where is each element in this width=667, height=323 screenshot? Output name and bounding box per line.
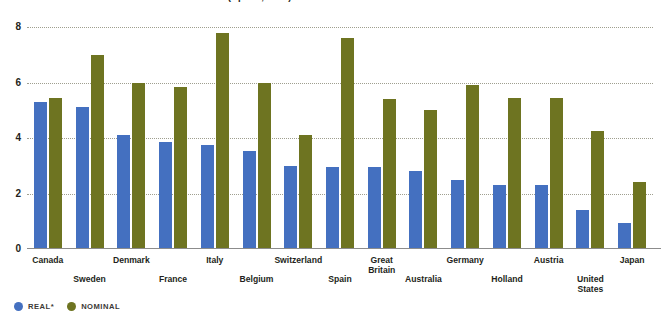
x-axis-label-holland: Holland	[486, 252, 528, 300]
bar-real[interactable]	[76, 107, 89, 249]
bar-real[interactable]	[368, 167, 381, 249]
bar-group	[570, 27, 612, 249]
bar-nominal[interactable]	[49, 98, 62, 249]
x-axis-label-switzerland: Switzerland	[277, 252, 319, 300]
x-axis-label-text: Spain	[328, 275, 351, 285]
bar-group	[110, 27, 152, 249]
bar-group	[361, 27, 403, 249]
legend-label: NOMINAL	[81, 302, 120, 311]
bar-real[interactable]	[576, 210, 589, 249]
x-axis-label-text: Denmark	[113, 256, 150, 266]
bar-group	[403, 27, 445, 249]
bar-nominal[interactable]	[216, 33, 229, 249]
x-axis-label-japan: Japan	[611, 252, 653, 300]
bar-group	[69, 27, 111, 249]
bar-group	[528, 27, 570, 249]
bar-real[interactable]	[618, 223, 631, 249]
y-axis-tick-label: 2	[15, 189, 21, 199]
legend-swatch-real-icon	[14, 302, 23, 311]
x-axis-label-sweden: Sweden	[69, 252, 111, 300]
bar-nominal[interactable]	[341, 38, 354, 249]
x-axis-label-text: Sweden	[73, 275, 105, 285]
legend-label: REAL*	[28, 302, 54, 311]
bar-real[interactable]	[201, 145, 214, 249]
y-axis-tick-label: 8	[15, 22, 21, 32]
x-axis-label-great-britain: Great Britain	[361, 252, 403, 300]
bar-nominal[interactable]	[466, 85, 479, 249]
bar-nominal[interactable]	[508, 98, 521, 249]
x-axis-category-labels: CanadaSwedenDenmarkFranceItalyBelgiumSwi…	[27, 252, 653, 300]
bar-real[interactable]	[243, 151, 256, 250]
x-axis-line	[27, 248, 661, 249]
bar-real[interactable]	[535, 185, 548, 249]
bar-nominal[interactable]	[383, 99, 396, 249]
y-axis-tick-label: 4	[15, 133, 21, 143]
bar-nominal[interactable]	[633, 182, 646, 249]
x-axis-label-united-states: United States	[570, 252, 612, 300]
x-axis-label-text: Australia	[405, 275, 442, 285]
bar-nominal[interactable]	[91, 55, 104, 249]
x-axis-label-text: Austria	[534, 256, 564, 266]
x-axis-label-france: France	[152, 252, 194, 300]
bar-group	[152, 27, 194, 249]
bar-nominal[interactable]	[174, 87, 187, 249]
bar-nominal[interactable]	[550, 98, 563, 249]
x-axis-label-text: Japan	[620, 256, 645, 266]
bar-real[interactable]	[117, 135, 130, 249]
legend-item-real[interactable]: REAL*	[14, 302, 54, 311]
figure-title: FIGURE 3-3 Nominal and real interest rat…	[27, 0, 292, 2]
bar-group	[444, 27, 486, 249]
bar-nominal[interactable]	[299, 135, 312, 249]
x-axis-label-text: Holland	[491, 275, 523, 285]
x-axis-label-australia: Australia	[403, 252, 445, 300]
x-axis-label-text: Switzerland	[274, 256, 322, 266]
bar-group	[319, 27, 361, 249]
x-axis-label-text: France	[159, 275, 187, 285]
y-axis-tick-label: 0	[15, 244, 21, 254]
x-axis-label-text: Belgium	[240, 275, 274, 285]
x-axis-label-text: Germany	[447, 256, 484, 266]
bar-nominal[interactable]	[591, 131, 604, 249]
y-axis-tick-label: 6	[15, 78, 21, 88]
x-axis-label-text: Canada	[32, 256, 63, 266]
x-axis-label-canada: Canada	[27, 252, 69, 300]
bar-nominal[interactable]	[258, 83, 271, 250]
bar-nominal[interactable]	[424, 110, 437, 249]
x-axis-label-austria: Austria	[528, 252, 570, 300]
bar-group	[486, 27, 528, 249]
x-axis-label-text: Italy	[206, 256, 223, 266]
legend-item-nominal[interactable]: NOMINAL	[67, 302, 120, 311]
bar-real[interactable]	[326, 167, 339, 249]
bar-groups	[27, 27, 653, 249]
bar-real[interactable]	[451, 180, 464, 249]
legend-swatch-nominal-icon	[67, 302, 76, 311]
bar-group	[236, 27, 278, 249]
x-axis-label-text: Great Britain	[361, 256, 403, 275]
x-axis-label-belgium: Belgium	[236, 252, 278, 300]
x-axis-label-italy: Italy	[194, 252, 236, 300]
bar-real[interactable]	[493, 185, 506, 249]
figure-container: FIGURE 3-3 Nominal and real interest rat…	[0, 0, 667, 323]
bar-real[interactable]	[284, 166, 297, 249]
bar-group	[194, 27, 236, 249]
bar-real[interactable]	[159, 142, 172, 249]
bar-real[interactable]	[34, 102, 47, 249]
plot-area: 02468	[27, 27, 653, 249]
bar-nominal[interactable]	[132, 83, 145, 250]
x-axis-label-germany: Germany	[444, 252, 486, 300]
bar-group	[27, 27, 69, 249]
bar-group	[277, 27, 319, 249]
bar-real[interactable]	[409, 171, 422, 249]
bar-group	[611, 27, 653, 249]
x-axis-label-denmark: Denmark	[110, 252, 152, 300]
x-axis-label-text: United States	[569, 275, 611, 294]
x-axis-label-spain: Spain	[319, 252, 361, 300]
chart-legend: REAL*NOMINAL	[14, 302, 120, 311]
